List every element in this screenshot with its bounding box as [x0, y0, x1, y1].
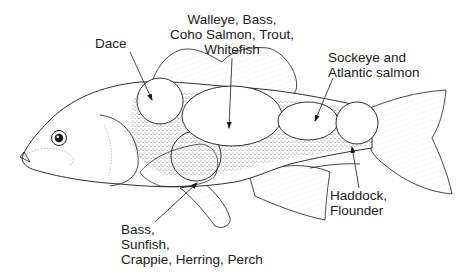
- label-bass-line-3: Crappie, Herring, Perch: [121, 252, 263, 267]
- haddock-region: [336, 102, 378, 144]
- label-walleye-line-2: Coho Salmon, Trout,: [170, 27, 294, 42]
- walleye-region: [182, 86, 282, 146]
- dace-region: [137, 78, 183, 124]
- label-haddock-line-2: Flounder: [330, 203, 387, 218]
- label-sockeye-line-2: Atlantic salmon: [328, 65, 420, 80]
- label-haddock: Haddock, Flounder: [330, 188, 387, 218]
- label-bass-line-1: Bass,: [121, 222, 263, 237]
- label-walleye-line-3: Whitefish: [170, 42, 294, 57]
- pelvic-fin: [180, 184, 230, 227]
- eye-icon: [52, 131, 67, 146]
- sockeye-region: [278, 102, 338, 140]
- label-haddock-line-1: Haddock,: [330, 188, 387, 203]
- label-sockeye: Sockeye and Atlantic salmon: [328, 50, 420, 80]
- label-walleye: Walleye, Bass, Coho Salmon, Trout, White…: [170, 12, 294, 57]
- ventral-outline: [310, 164, 360, 168]
- label-dace-line-1: Dace: [95, 36, 127, 51]
- tail-fin: [370, 90, 452, 194]
- label-bass-line-2: Sunfish,: [121, 237, 263, 252]
- haddock-arrow: [352, 147, 359, 188]
- label-sockeye-line-1: Sockeye and: [328, 50, 420, 65]
- bass-arrow: [155, 183, 197, 222]
- label-walleye-line-1: Walleye, Bass,: [170, 12, 294, 27]
- label-bass: Bass, Sunfish, Crappie, Herring, Perch: [121, 222, 263, 267]
- label-dace: Dace: [95, 36, 127, 51]
